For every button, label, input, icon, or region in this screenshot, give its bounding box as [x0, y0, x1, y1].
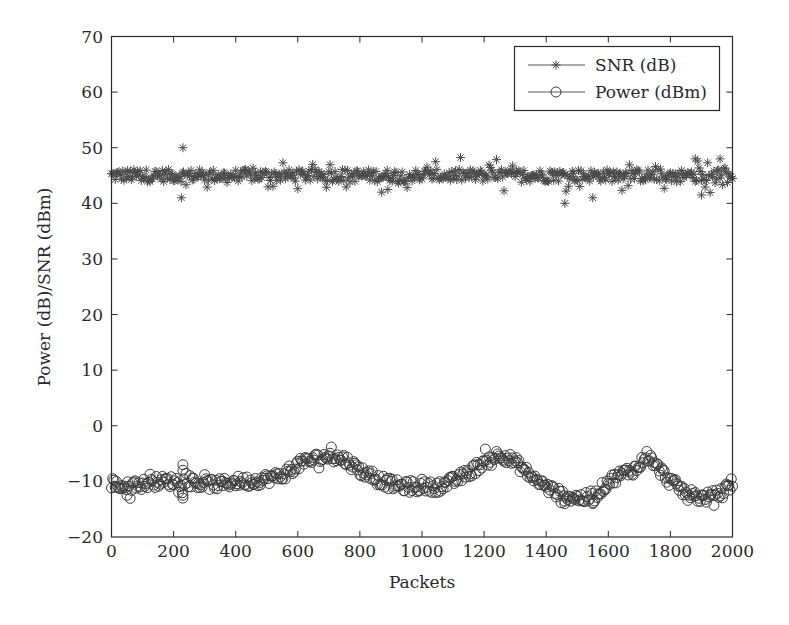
snr-point — [575, 182, 584, 191]
snr-point — [624, 181, 633, 190]
snr-point — [702, 176, 711, 185]
snr-point — [706, 188, 715, 197]
snr-point — [263, 182, 272, 191]
y-axis-label: Power (dB)/SNR (dBm) — [34, 188, 54, 387]
chart: 0200400600800100012001400160018002000 −2… — [0, 0, 789, 625]
snr-point — [660, 184, 669, 193]
x-tick-label: 1000 — [400, 541, 443, 561]
snr-point — [209, 166, 218, 175]
y-tick-label: 40 — [81, 193, 103, 213]
snr-point — [177, 193, 186, 202]
x-tick-label: 800 — [344, 541, 376, 561]
asterisk-icon — [552, 61, 561, 70]
snr-point — [403, 183, 412, 192]
snr-point — [291, 177, 300, 186]
x-tick-label: 2000 — [711, 541, 754, 561]
snr-point — [249, 164, 258, 173]
snr-point — [499, 186, 508, 195]
snr-point — [562, 187, 571, 196]
y-tick-label: 50 — [81, 138, 103, 158]
snr-point — [617, 186, 626, 195]
snr-point — [508, 161, 517, 170]
y-tick-label: 0 — [92, 416, 103, 436]
snr-point — [716, 154, 725, 163]
snr-point — [383, 185, 392, 194]
x-tick-label: 1800 — [649, 541, 692, 561]
snr-point — [694, 163, 703, 172]
snr-point — [492, 155, 501, 164]
y-tick-label: 60 — [81, 82, 103, 102]
snr-point — [483, 175, 492, 184]
snr-point — [564, 182, 573, 191]
snr-point — [456, 153, 465, 162]
snr-point — [331, 167, 340, 176]
y-tick-label: 10 — [81, 360, 103, 380]
x-tick-label: 200 — [157, 541, 189, 561]
power-point — [178, 460, 188, 470]
snr-point — [431, 157, 440, 166]
y-tick-label: 70 — [81, 27, 103, 47]
x-tick-label: 1600 — [587, 541, 630, 561]
y-tick-label: −10 — [67, 471, 103, 491]
y-tick-label: 30 — [81, 249, 103, 269]
snr-point — [560, 199, 569, 208]
x-axis-label: Packets — [389, 572, 455, 592]
snr-point — [350, 177, 359, 186]
snr-point — [691, 154, 700, 163]
snr-point — [142, 166, 151, 175]
snr-point — [383, 166, 392, 175]
snr-point — [326, 160, 335, 169]
snr-point — [554, 177, 563, 186]
x-tick-label: 1200 — [462, 541, 505, 561]
x-tick-label: 1400 — [525, 541, 568, 561]
snr-point — [342, 182, 351, 191]
x-tick-label: 0 — [106, 541, 117, 561]
snr-point — [293, 184, 302, 193]
snr-point — [268, 182, 277, 191]
legend-label-snr: SNR (dB) — [595, 55, 676, 75]
snr-point — [519, 166, 528, 175]
snr-point — [697, 190, 706, 199]
y-tick-label: 20 — [81, 305, 103, 325]
plot-area — [107, 143, 738, 510]
power-point — [480, 444, 490, 454]
snr-point — [203, 183, 212, 192]
x-tick-label: 400 — [219, 541, 251, 561]
snr-point — [588, 193, 597, 202]
legend: SNR (dB) Power (dBm) — [515, 47, 720, 111]
snr-point — [178, 143, 187, 152]
snr-point — [432, 165, 441, 174]
x-tick-label: 600 — [282, 541, 314, 561]
y-tick-label: −20 — [67, 527, 103, 547]
snr-point — [278, 158, 287, 167]
snr-point — [182, 180, 191, 189]
legend-label-power: Power (dBm) — [595, 82, 707, 102]
snr-point — [703, 158, 712, 167]
